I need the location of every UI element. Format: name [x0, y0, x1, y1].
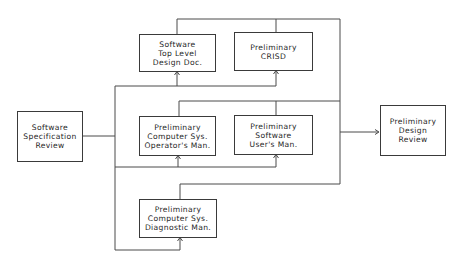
box-label: Software Specification Review: [23, 123, 76, 150]
box-label: Preliminary Computer Sys. Diagnostic Man…: [145, 205, 211, 232]
box-preliminary-design-review: Preliminary Design Review: [380, 105, 446, 156]
connector-bus-mid: [115, 155, 276, 167]
connector-mid-out: [179, 101, 340, 116]
box-label: Preliminary Design Review: [390, 117, 437, 144]
connector-diag-out: [180, 184, 340, 199]
box-label: Preliminary CRISD: [250, 43, 297, 61]
box-software-users-manual: Preliminary Software User's Man.: [234, 115, 313, 155]
connector-bus-top: [115, 71, 276, 86]
box-computer-sys-operators-manual: Preliminary Computer Sys. Operator's Man…: [139, 116, 216, 156]
box-label: Preliminary Software User's Man.: [249, 122, 297, 149]
box-label: Preliminary Computer Sys. Operator's Man…: [144, 123, 210, 150]
box-software-top-level-design-doc: Software Top Level Design Doc.: [139, 34, 216, 72]
box-software-specification-review: Software Specification Review: [17, 111, 83, 162]
connector-bus-diag: [115, 238, 180, 250]
flow-diagram: Software Specification Review Software T…: [0, 0, 463, 265]
box-label: Software Top Level Design Doc.: [153, 40, 203, 67]
box-computer-sys-diagnostic-manual: Preliminary Computer Sys. Diagnostic Man…: [139, 199, 217, 238]
box-preliminary-crisd: Preliminary CRISD: [234, 32, 313, 71]
